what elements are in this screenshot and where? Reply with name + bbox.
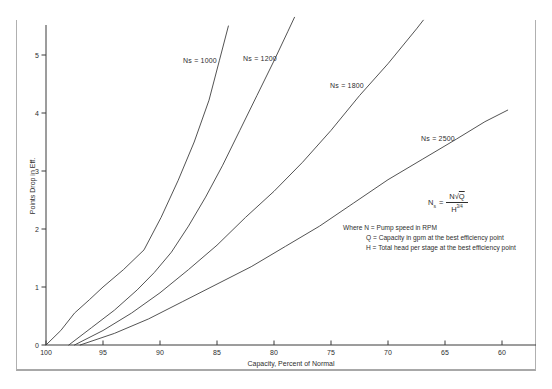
x-tick-label: 90 [156,349,164,356]
curve-label: Ns = 1800 [330,82,364,89]
y-tick-label: 2 [35,226,39,233]
formula-legend: Where N = Pump speed in RPM Q = Capacity… [343,223,516,253]
y-tick-label: 3 [35,168,39,175]
curve-label: Ns = 2500 [421,135,455,142]
formula-fraction: N√Q H3/4 [446,192,467,214]
curve-label: Ns = 1200 [243,55,277,62]
x-tick-label: 75 [327,349,335,356]
x-tick-label: 95 [99,349,107,356]
y-tick-label: 5 [35,52,39,59]
curve-Ns=1000 [46,26,228,345]
y-tick-label: 4 [35,110,39,117]
y-tick-label: 1 [35,284,39,291]
chart-figure: 1009590858075706560012345 Points Drop in… [0,0,552,389]
formula-numerator: N√Q [446,192,467,203]
formula-legend-line-n: Where N = Pump speed in RPM [343,223,516,233]
formula-legend-line-q: Q = Capacity in gpm at the best efficien… [343,233,516,243]
x-tick-label: 70 [384,349,392,356]
formula-legend-line-h: H = Total head per stage at the best eff… [343,243,516,253]
x-tick-label: 85 [213,349,221,356]
x-axis-title: Capacity, Percent of Normal [247,360,334,367]
x-tick-label: 65 [441,349,449,356]
y-axis-title: Points Drop in Eff. [29,158,36,214]
curve-Ns=1200 [69,17,295,345]
x-tick-label: 80 [270,349,278,356]
formula-denominator: H3/4 [451,203,463,214]
curve-Ns=1800 [75,20,424,345]
formula-equals: = [439,198,443,207]
formula-lhs: Ns [428,198,436,209]
y-tick-label: 0 [35,342,39,349]
specific-speed-formula: Ns = N√Q H3/4 [428,192,468,214]
x-tick-label: 60 [498,349,506,356]
curve-label: Ns = 1000 [183,57,217,64]
x-tick-label: 100 [40,349,52,356]
